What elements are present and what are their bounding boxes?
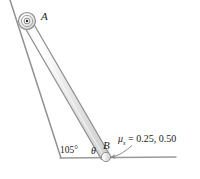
ground-line (60, 157, 176, 158)
label-angle-105: 105° (60, 146, 78, 156)
rod-end-b (101, 152, 110, 161)
label-point-a: A (41, 11, 48, 22)
rod-ab (22, 19, 109, 160)
pin-joint-icon (19, 13, 36, 30)
diagram-canvas (0, 0, 200, 179)
label-angle-theta: θ (91, 146, 96, 156)
label-point-b: B (103, 140, 110, 151)
mechanics-diagram: A B 105° θ μs = 0.25, 0.50 (0, 0, 200, 179)
mu-values: = 0.25, 0.50 (126, 133, 177, 144)
leader-arrow-icon (111, 146, 133, 158)
label-friction-coefficients: μs = 0.25, 0.50 (118, 134, 176, 147)
